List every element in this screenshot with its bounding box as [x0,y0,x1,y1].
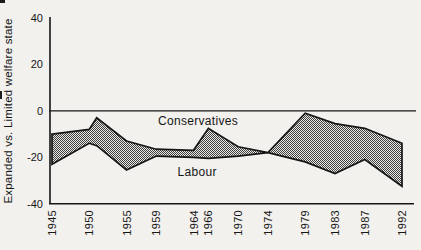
x-tick-label: 1974 [262,210,274,236]
y-tick-label: 0 [37,105,43,117]
x-tick-label: 1987 [359,210,371,236]
x-tick-label: 1945 [46,210,58,236]
x-tick-label: 1950 [83,210,95,236]
x-tick-label: 1966 [202,210,214,236]
figure: 40200-20-4019451950195519591964196619701… [0,0,421,250]
x-tick-label: 1955 [121,210,133,236]
welfare-state-chart: 40200-20-4019451950195519591964196619701… [0,0,421,250]
y-tick-label: 40 [31,12,43,24]
scan-artifact-edge [0,91,2,99]
x-tick-label: 1970 [232,210,244,236]
x-tick-label: 1983 [329,210,341,236]
x-tick-label: 1979 [299,210,311,236]
series-label-conservatives: Conservatives [158,114,238,128]
scan-artifact-corner [0,0,5,3]
y-axis-title: Expanded vs. Limited welfare state [2,18,14,203]
y-tick-label: -20 [27,151,43,163]
x-tick-label: 1959 [150,210,162,236]
series-label-labour: Labour [178,165,217,179]
y-tick-label: -40 [27,198,43,210]
x-tick-label: 1992 [396,210,408,236]
y-tick-label: 20 [31,58,43,70]
x-tick-label: 1964 [188,210,200,236]
